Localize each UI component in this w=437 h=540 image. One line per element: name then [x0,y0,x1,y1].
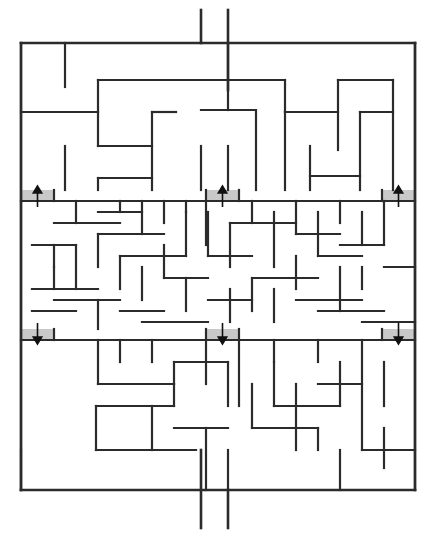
maze-figure [0,0,437,540]
maze-canvas [0,0,437,540]
